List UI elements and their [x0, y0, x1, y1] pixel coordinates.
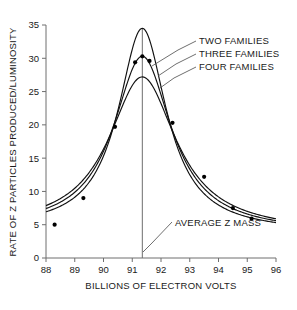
data-point — [231, 206, 235, 210]
data-point — [81, 196, 85, 200]
x-tick-label: 91 — [127, 264, 138, 275]
curve-four-families — [46, 77, 276, 219]
x-tick-label: 96 — [271, 264, 282, 275]
data-point — [202, 175, 206, 179]
data-point — [53, 223, 57, 227]
z-resonance-chart: 05101520253035 888990919293949596 TWO FA… — [0, 0, 297, 310]
y-tick-label: 35 — [28, 19, 39, 30]
y-tick-label: 10 — [28, 186, 39, 197]
x-tick-label: 89 — [69, 264, 80, 275]
x-tick-label: 90 — [98, 264, 109, 275]
x-tick-label: 93 — [184, 264, 195, 275]
curve-three-families — [46, 56, 276, 220]
data-point — [113, 125, 117, 129]
leader-line-average-z-mass — [143, 222, 172, 252]
x-tick-label: 95 — [242, 264, 253, 275]
series-label-four-families: FOUR FAMILIES — [199, 61, 274, 72]
chart-canvas: 05101520253035 888990919293949596 TWO FA… — [0, 0, 297, 310]
x-tick-label: 94 — [213, 264, 224, 275]
x-axis-title: BILLIONS OF ELECTRON VOLTS — [85, 280, 236, 291]
y-axis-tick-labels: 05101520253035 — [28, 19, 39, 263]
data-point — [140, 54, 144, 58]
x-tick-label: 92 — [156, 264, 167, 275]
y-tick-label: 25 — [28, 86, 39, 97]
data-point — [170, 121, 174, 125]
data-point — [133, 60, 137, 64]
y-tick-label: 30 — [28, 53, 39, 64]
y-tick-label: 0 — [34, 252, 39, 263]
leader-line-three-families — [158, 54, 196, 76]
x-axis-tick-labels: 888990919293949596 — [41, 264, 282, 275]
y-tick-label: 5 — [34, 219, 39, 230]
y-axis-title: RATE OF Z PARTICLES PRODUCED/LUMINOSITY — [7, 27, 18, 256]
data-point-markers — [53, 54, 254, 227]
series-label-three-families: THREE FAMILIES — [199, 48, 279, 59]
data-point — [147, 59, 151, 63]
y-tick-label: 20 — [28, 119, 39, 130]
y-tick-label: 15 — [28, 153, 39, 164]
x-axis-ticks — [46, 258, 276, 262]
leader-line-four-families — [160, 67, 196, 88]
series-label-two-families: TWO FAMILIES — [199, 35, 269, 46]
x-tick-label: 88 — [41, 264, 52, 275]
y-axis-ticks — [42, 25, 46, 258]
annotation-average-z-mass: AVERAGE Z MASS — [175, 217, 261, 228]
leader-line-two-families — [152, 41, 196, 66]
